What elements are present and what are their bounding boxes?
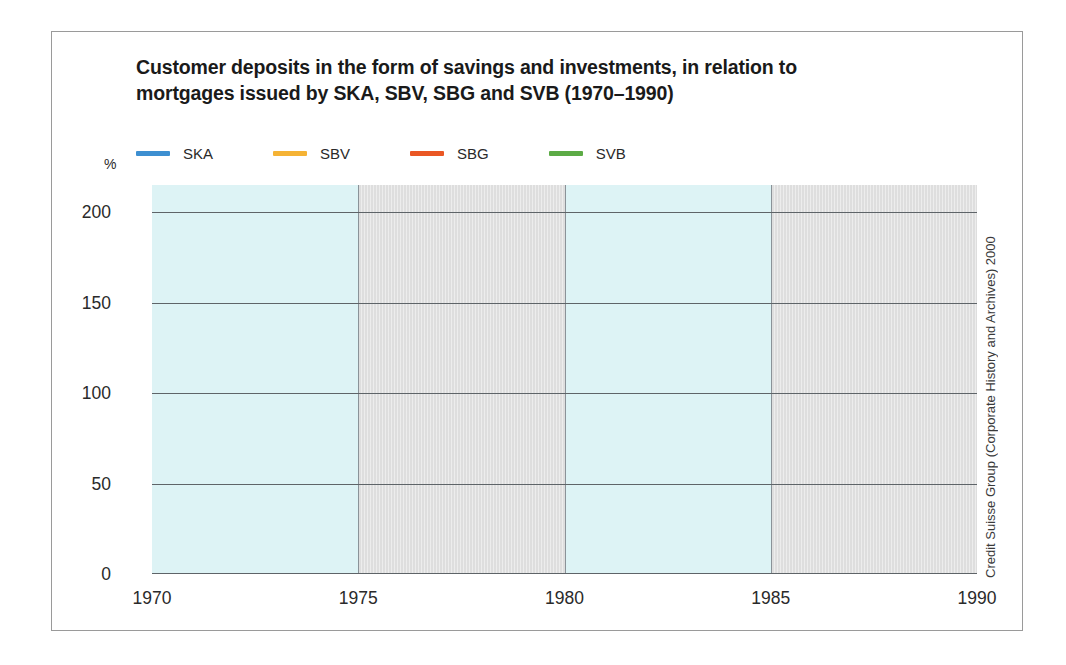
plot-canvas	[152, 185, 977, 574]
background-band	[565, 185, 771, 574]
legend-label: SKA	[183, 145, 213, 162]
legend-swatch-icon	[549, 151, 583, 156]
vertical-separator	[771, 185, 772, 574]
y-tick-label: 150	[82, 292, 111, 313]
legend-swatch-icon	[410, 151, 444, 156]
gridline	[152, 393, 977, 394]
y-tick-label: 50	[92, 473, 111, 494]
title-line-1: Customer deposits in the form of savings…	[136, 54, 936, 80]
legend-swatch-icon	[136, 151, 170, 156]
plot-background	[152, 185, 977, 574]
y-axis-labels: 200150100500	[51, 178, 111, 578]
x-tick-label: 1975	[339, 588, 378, 609]
legend-item-svb: SVB	[549, 145, 626, 162]
legend-label: SBV	[320, 145, 350, 162]
legend-item-ska: SKA	[136, 145, 213, 162]
gridline	[152, 212, 977, 213]
title-line-2: mortgages issued by SKA, SBV, SBG and SV…	[136, 80, 936, 106]
y-tick-label: 0	[101, 564, 111, 585]
chart-legend: SKASBVSBGSVB	[136, 142, 686, 164]
legend-label: SVB	[596, 145, 626, 162]
axis-baseline	[152, 573, 977, 574]
x-tick-label: 1990	[958, 588, 997, 609]
background-band	[358, 185, 564, 574]
y-tick-label: 100	[82, 383, 111, 404]
gridline	[152, 303, 977, 304]
x-tick-label: 1980	[545, 588, 584, 609]
background-band	[771, 185, 977, 574]
background-band	[152, 185, 358, 574]
y-axis-unit: %	[104, 156, 116, 172]
y-tick-label: 200	[82, 202, 111, 223]
gridline	[152, 484, 977, 485]
plot-area	[119, 178, 977, 578]
legend-item-sbg: SBG	[410, 145, 489, 162]
legend-swatch-icon	[273, 151, 307, 156]
legend-item-sbv: SBV	[273, 145, 350, 162]
page-title: Customer deposits in the form of savings…	[136, 54, 936, 106]
source-credit: Credit Suisse Group (Corporate History a…	[983, 178, 998, 578]
x-tick-label: 1985	[751, 588, 790, 609]
vertical-separator	[358, 185, 359, 574]
chart-page: Customer deposits in the form of savings…	[0, 0, 1066, 665]
x-axis-labels: 19701975198019851990	[119, 588, 977, 612]
x-tick-label: 1970	[133, 588, 172, 609]
vertical-separator	[565, 185, 566, 574]
legend-label: SBG	[457, 145, 489, 162]
